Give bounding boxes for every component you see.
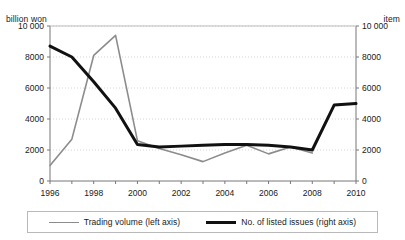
x-axis-tick-label: 2002	[172, 188, 191, 198]
left-axis-tick-label: 2000	[25, 145, 44, 155]
x-axis-tick-label: 1996	[41, 188, 60, 198]
plot-area: 0200040006000800010 00002000400060008000…	[0, 0, 405, 210]
legend-swatch-listed-issues-icon	[206, 221, 236, 224]
x-axis-tick-label: 2000	[128, 188, 147, 198]
legend-item-trading-volume: Trading volume (left axis)	[49, 217, 180, 227]
right-axis-tick-label: 4000	[362, 114, 381, 124]
x-axis-tick-label: 2004	[215, 188, 234, 198]
chart-legend: Trading volume (left axis) No. of listed…	[27, 211, 378, 233]
left-axis-tick-label: 8000	[25, 52, 44, 62]
series-line-listed-issues	[50, 46, 356, 150]
right-axis-tick-label: 2000	[362, 145, 381, 155]
legend-swatch-trading-volume-icon	[49, 222, 79, 223]
right-axis-tick-label: 8000	[362, 52, 381, 62]
left-axis-tick-label: 0	[39, 176, 44, 186]
x-axis-tick-label: 1998	[84, 188, 103, 198]
right-axis-unit-label: item	[384, 14, 400, 24]
left-axis-tick-label: 4000	[25, 114, 44, 124]
right-axis-tick-label: 0	[362, 176, 367, 186]
legend-label-trading-volume: Trading volume (left axis)	[84, 217, 180, 227]
x-axis-tick-label: 2008	[303, 188, 322, 198]
chart-figure: billion won item 0200040006000800010 000…	[0, 0, 405, 240]
left-axis-tick-label: 6000	[25, 83, 44, 93]
x-axis-tick-label: 2010	[347, 188, 366, 198]
right-axis-tick-label: 6000	[362, 83, 381, 93]
legend-item-listed-issues: No. of listed issues (right axis)	[206, 217, 356, 227]
legend-label-listed-issues: No. of listed issues (right axis)	[241, 217, 356, 227]
left-axis-unit-label: billion won	[6, 14, 47, 24]
x-axis-tick-label: 2006	[259, 188, 278, 198]
